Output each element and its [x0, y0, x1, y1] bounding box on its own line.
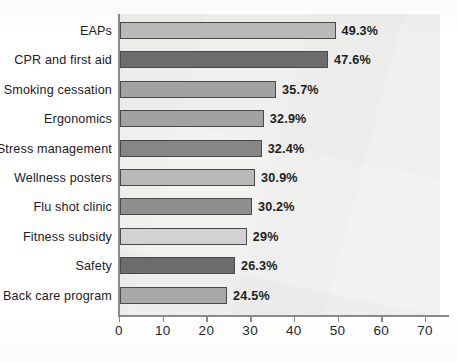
bar-row: Safety26.3% — [0, 257, 457, 275]
x-tick-label: 40 — [286, 323, 302, 338]
bar — [120, 198, 252, 215]
category-label: Back care program — [3, 289, 112, 303]
x-tick-label: 70 — [417, 323, 433, 338]
bar-row: Flu shot clinic30.2% — [0, 198, 457, 216]
category-label: Stress management — [0, 142, 112, 156]
category-label: Smoking cessation — [4, 83, 112, 97]
bar-value-label: 29% — [253, 230, 279, 244]
bar-value-label: 35.7% — [282, 83, 319, 97]
bar — [120, 22, 336, 39]
category-label: CPR and first aid — [14, 53, 112, 67]
bar-row: EAPs49.3% — [0, 22, 457, 40]
bar — [120, 257, 235, 274]
x-tick-20 — [206, 316, 207, 322]
bar-row: Smoking cessation35.7% — [0, 81, 457, 99]
x-tick-label: 50 — [330, 323, 346, 338]
category-label: Safety — [75, 259, 112, 273]
bar-row: Wellness posters30.9% — [0, 169, 457, 187]
bar — [120, 140, 262, 157]
bar-value-label: 30.2% — [258, 200, 295, 214]
bar — [120, 169, 255, 186]
bar-row: Ergonomics32.9% — [0, 110, 457, 128]
category-label: Fitness subsidy — [23, 230, 112, 244]
bar-row: Back care program24.5% — [0, 287, 457, 305]
bar-value-label: 47.6% — [334, 53, 371, 67]
x-tick-label: 60 — [373, 323, 389, 338]
bar-row: CPR and first aid47.6% — [0, 51, 457, 69]
x-tick-label: 0 — [115, 323, 123, 338]
x-tick-label: 30 — [242, 323, 258, 338]
bar-value-label: 30.9% — [261, 171, 298, 185]
x-tick-60 — [381, 316, 382, 322]
x-tick-40 — [294, 316, 295, 322]
category-label: Ergonomics — [44, 112, 112, 126]
bar — [120, 228, 247, 245]
x-tick-10 — [163, 316, 164, 322]
bar — [120, 287, 227, 304]
bar-value-label: 32.9% — [270, 112, 307, 126]
bar — [120, 110, 264, 127]
bar — [120, 51, 328, 68]
bar-row: Fitness subsidy29% — [0, 228, 457, 246]
bar-value-label: 26.3% — [241, 259, 278, 273]
bar-value-label: 24.5% — [233, 289, 270, 303]
category-label: Wellness posters — [14, 171, 112, 185]
x-tick-50 — [338, 316, 339, 322]
x-tick-70 — [425, 316, 426, 322]
x-tick-30 — [250, 316, 251, 322]
bar-value-label: 32.4% — [268, 142, 305, 156]
x-axis-line — [118, 315, 449, 317]
category-label: EAPs — [80, 24, 112, 38]
category-label: Flu shot clinic — [33, 200, 112, 214]
x-tick-label: 20 — [199, 323, 215, 338]
x-tick-0 — [119, 316, 120, 322]
bar-row: Stress management32.4% — [0, 140, 457, 158]
bar — [120, 81, 276, 98]
x-tick-label: 10 — [155, 323, 171, 338]
bar-value-label: 49.3% — [342, 24, 379, 38]
bar-chart: 010203040506070 EAPs49.3%CPR and first a… — [0, 0, 457, 362]
